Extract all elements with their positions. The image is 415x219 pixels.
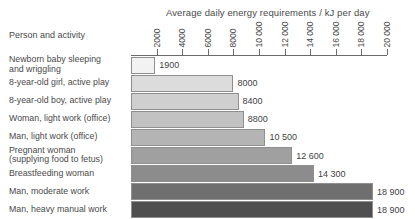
bar-track: 12 600: [131, 147, 415, 164]
bar-row: Newborn baby sleeping and wriggling1900: [0, 56, 415, 74]
bar-category-label: Breastfeeding woman: [9, 169, 127, 179]
bar-track: 8400: [131, 93, 415, 110]
category-column-header: Person and activity: [9, 30, 85, 40]
bar: [131, 111, 244, 128]
bar-category-label: Woman, light work (office): [9, 115, 127, 125]
bar-value-label: 8800: [244, 114, 268, 124]
bar-track: 18 900: [131, 183, 415, 200]
bar-row: 8-year-old boy, active play8400: [0, 92, 415, 110]
bar-category-label: 8-year-old boy, active play: [9, 96, 127, 106]
bar: [131, 165, 314, 182]
x-axis-tick: 4000: [182, 0, 183, 55]
bar-value-label: 12 600: [292, 151, 324, 161]
tick-mark: [157, 49, 158, 55]
bar-track: 8000: [131, 75, 415, 92]
tick-mark: [233, 49, 234, 55]
tick-label: 8000: [229, 28, 238, 47]
tick-mark: [336, 49, 337, 55]
bar-category-label: Man, moderate work: [9, 187, 127, 197]
bar-row: Man, moderate work18 900: [0, 183, 415, 201]
bar-track: 8800: [131, 111, 415, 128]
x-axis-tick: 8000: [233, 0, 234, 55]
tick-mark: [259, 49, 260, 55]
tick-label: 18 000: [357, 21, 366, 47]
bar-row: Man, heavy manual work18 900: [0, 201, 415, 219]
bar-rows: Newborn baby sleeping and wriggling19008…: [0, 56, 415, 219]
x-axis-tick: 6000: [208, 0, 209, 55]
tick-label: 20 000: [383, 21, 392, 47]
x-axis-tick: 14 000: [310, 0, 311, 55]
x-axis-tick: 20 000: [387, 0, 388, 55]
bar-category-label: 8-year-old girl, active play: [9, 78, 127, 88]
tick-label: 2000: [152, 28, 161, 47]
bar: [131, 147, 292, 164]
bar-value-label: 18 900: [373, 205, 405, 215]
bar: [131, 201, 373, 218]
bar-row: Breastfeeding woman14 300: [0, 165, 415, 183]
tick-mark: [361, 49, 362, 55]
bar-value-label: 8400: [239, 96, 263, 106]
tick-label: 4000: [178, 28, 187, 47]
energy-requirements-bar-chart: Average daily energy requirements / kJ p…: [0, 0, 415, 219]
tick-label: 14 000: [306, 21, 315, 47]
bar: [131, 93, 239, 110]
bar: [131, 129, 265, 146]
bar-track: 1900: [131, 57, 415, 74]
bar-row: Woman, light work (office)8800: [0, 110, 415, 128]
bar-track: 14 300: [131, 165, 415, 182]
bar-category-label: Pregnant woman (supplying food to fetus): [9, 146, 127, 165]
chart-title: Average daily energy requirements / kJ p…: [166, 7, 370, 18]
bar-category-label: Man, light work (office): [9, 133, 127, 143]
bar-value-label: 8000: [233, 78, 257, 88]
x-axis-tick: 18 000: [361, 0, 362, 55]
x-axis-tick: 12 000: [285, 0, 286, 55]
bar: [131, 183, 373, 200]
bar-value-label: 18 900: [373, 187, 405, 197]
bar-value-label: 14 300: [314, 169, 346, 179]
tick-mark: [208, 49, 209, 55]
bar-value-label: 10 500: [265, 132, 297, 142]
tick-mark: [387, 49, 388, 55]
tick-mark: [182, 49, 183, 55]
bar-row: Man, light work (office)10 500: [0, 128, 415, 146]
bar-category-label: Man, heavy manual work: [9, 205, 127, 215]
tick-mark: [285, 49, 286, 55]
tick-label: 16 000: [331, 21, 340, 47]
bar: [131, 75, 233, 92]
x-axis-tick: 10 000: [259, 0, 260, 55]
tick-mark: [310, 49, 311, 55]
bar-row: 8-year-old girl, active play8000: [0, 74, 415, 92]
tick-label: 12 000: [280, 21, 289, 47]
bar-track: 10 500: [131, 129, 415, 146]
bar-row: Pregnant woman (supplying food to fetus)…: [0, 146, 415, 164]
x-axis-tick: 2000: [157, 0, 158, 55]
tick-label: 6000: [203, 28, 212, 47]
bar-track: 18 900: [131, 201, 415, 218]
bar-value-label: 1900: [155, 60, 179, 70]
bar: [131, 57, 155, 74]
tick-label: 10 000: [255, 21, 264, 47]
x-axis-tick: 16 000: [336, 0, 337, 55]
bar-category-label: Newborn baby sleeping and wriggling: [9, 55, 127, 74]
